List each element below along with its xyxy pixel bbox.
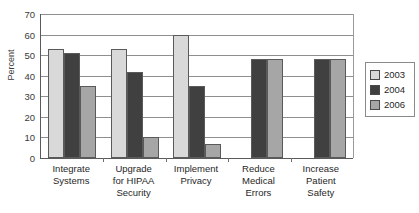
bar-2006[interactable]	[330, 59, 346, 158]
legend-label: 2004	[384, 85, 405, 95]
x-tick-mark	[228, 158, 229, 162]
bar-2006[interactable]	[267, 59, 283, 158]
plot-right-border	[353, 14, 354, 158]
bar-groups	[41, 14, 353, 158]
bar-2003[interactable]	[111, 49, 127, 158]
bar-2004[interactable]	[251, 59, 267, 158]
legend-item-2006[interactable]: 2006	[370, 97, 411, 112]
x-tick-mark	[291, 158, 292, 162]
y-tick-label-60: 60	[13, 31, 35, 40]
x-axis-label: Increase Patient Safety	[290, 163, 352, 199]
legend-label: 2003	[384, 70, 405, 80]
y-tick-label-40: 40	[13, 72, 35, 81]
bar-2004[interactable]	[189, 86, 205, 158]
x-axis-label: Integrate Systems	[40, 163, 102, 199]
x-axis-category-labels: Integrate SystemsUpgrade for HIPAA Secur…	[40, 163, 352, 199]
x-axis-label: Implement Privacy	[165, 163, 227, 199]
chart-title	[40, 0, 352, 2]
y-tick-label-10: 10	[13, 133, 35, 142]
bar-group	[291, 14, 353, 158]
bar-2006[interactable]	[205, 144, 221, 158]
bar-2004[interactable]	[64, 53, 80, 158]
y-tick-label-20: 20	[13, 113, 35, 122]
chart-legend: 200320042006	[365, 62, 415, 117]
plot-area	[40, 14, 353, 159]
y-tick-label-30: 30	[13, 92, 35, 101]
bar-2003[interactable]	[48, 49, 64, 158]
bar-chart: Percent 706050403020100 Integrate System…	[0, 0, 419, 213]
bar-2004[interactable]	[127, 72, 143, 158]
bar-2006[interactable]	[80, 86, 96, 158]
legend-label: 2006	[384, 100, 405, 110]
y-tick-label-50: 50	[13, 51, 35, 60]
bar-group	[103, 14, 165, 158]
bar-group	[41, 14, 103, 158]
legend-item-2004[interactable]: 2004	[370, 82, 411, 97]
bar-group	[166, 14, 228, 158]
y-axis-tick-labels: 706050403020100	[11, 0, 35, 213]
legend-swatch-icon	[370, 85, 380, 95]
x-tick-mark	[166, 158, 167, 162]
x-axis-label: Upgrade for HIPAA Security	[102, 163, 164, 199]
bar-2003[interactable]	[173, 35, 189, 158]
bar-2004[interactable]	[314, 59, 330, 158]
bar-2006[interactable]	[143, 137, 159, 158]
bar-group	[228, 14, 290, 158]
legend-item-2003[interactable]: 2003	[370, 67, 411, 82]
y-tick-label-0: 0	[13, 154, 35, 163]
x-tick-mark	[103, 158, 104, 162]
y-tick-label-70: 70	[13, 10, 35, 19]
x-axis-label: Reduce Medical Errors	[227, 163, 289, 199]
legend-swatch-icon	[370, 70, 380, 80]
legend-swatch-icon	[370, 100, 380, 110]
